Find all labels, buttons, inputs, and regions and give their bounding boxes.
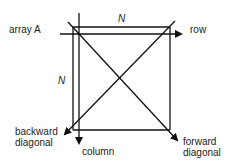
array-traversal-diagram: array A N N row column backward diagonal… xyxy=(0,0,231,161)
column-label: column xyxy=(82,146,114,157)
backward-diagonal-label-line2: diagonal xyxy=(15,137,53,148)
array-label: array A xyxy=(9,24,41,35)
backward-diagonal-arrow xyxy=(65,21,175,134)
left-dimension-label: N xyxy=(58,75,65,86)
forward-diagonal-label-line1: forward xyxy=(183,136,216,147)
forward-diagonal-label-line2: diagonal xyxy=(183,147,221,158)
forward-diagonal-arrow xyxy=(68,22,177,140)
backward-diagonal-label-line1: backward xyxy=(15,126,58,137)
top-dimension-label: N xyxy=(118,13,125,24)
row-label: row xyxy=(190,24,206,35)
